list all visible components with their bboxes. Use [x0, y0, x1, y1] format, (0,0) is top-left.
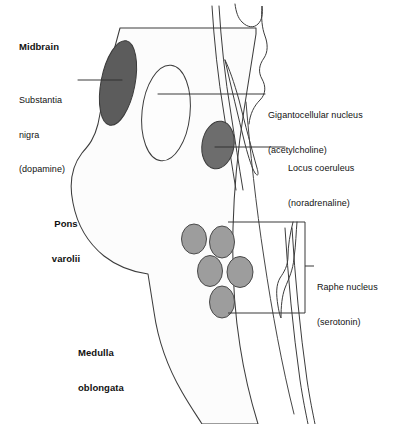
label-substantia-nigra: Substantia nigra (dopamine)	[19, 72, 65, 199]
label-midbrain: Midbrain	[19, 41, 59, 53]
label-raphe-nucleus-line1: Raphe nucleus	[317, 282, 378, 294]
raphe-oval-upper-left	[182, 224, 207, 254]
spinal-cord-line-inner	[292, 228, 315, 424]
brainstem-diagram: Midbrain Substantia nigra (dopamine) Gig…	[0, 0, 407, 424]
label-medulla-line2: oblongata	[78, 382, 124, 394]
label-raphe-nucleus-line2: (serotonin)	[317, 317, 378, 329]
label-substantia-nigra-line2: nigra	[19, 130, 65, 142]
label-locus-coeruleus-line2: (noradrenaline)	[288, 198, 354, 210]
label-medulla-line1: Medulla	[78, 347, 124, 359]
raphe-oval-upper-right	[210, 226, 235, 258]
obex-fold-shape	[277, 222, 297, 318]
label-pons-line2: varolii	[36, 253, 96, 265]
label-raphe-nucleus: Raphe nucleus (serotonin)	[317, 259, 378, 351]
raphe-oval-middle-right	[227, 257, 253, 288]
label-locus-coeruleus: Locus coeruleus (noradrenaline)	[288, 140, 354, 232]
label-pons-line1: Pons	[36, 218, 96, 230]
raphe-oval-middle-left	[198, 256, 223, 287]
label-pons-varolii: Pons varolii	[36, 195, 96, 287]
obex-fold-group	[277, 222, 297, 318]
label-substantia-nigra-line3: (dopamine)	[19, 164, 65, 176]
label-gigantocellular-line1: Gigantocellular nucleus	[268, 110, 363, 122]
label-medulla-oblongata: Medulla oblongata	[78, 324, 124, 416]
label-substantia-nigra-line1: Substantia	[19, 95, 65, 107]
label-locus-coeruleus-line1: Locus coeruleus	[288, 163, 354, 175]
